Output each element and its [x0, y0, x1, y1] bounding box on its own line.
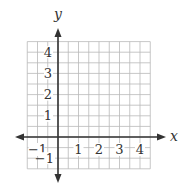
x-axis-left-arrow-icon [15, 134, 24, 141]
coordinate-plane: −11234−11234 x y [0, 0, 187, 194]
x-tick-label: 4 [136, 142, 144, 157]
y-tick-label: 3 [44, 66, 52, 81]
x-tick-label: 3 [115, 142, 123, 157]
x-tick-label: 1 [74, 142, 82, 157]
y-tick-label: −1 [35, 151, 54, 166]
y-tick-label: 2 [44, 87, 52, 102]
x-axis-right-arrow-icon [157, 134, 166, 141]
x-axis-label: x [170, 128, 178, 144]
y-tick-label: 4 [44, 45, 52, 60]
coordinate-plane-svg: −11234−11234 x y [0, 0, 187, 194]
x-tick-label: 2 [95, 142, 103, 157]
y-axis-label: y [53, 6, 63, 22]
y-axis-up-arrow-icon [55, 28, 62, 37]
y-tick-label: 1 [44, 108, 52, 123]
y-axis-down-arrow-icon [55, 174, 62, 183]
